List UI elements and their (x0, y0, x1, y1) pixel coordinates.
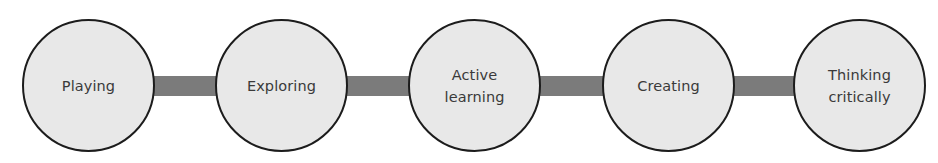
node-label: Playing (62, 75, 115, 97)
node-active-learning: Active learning (408, 19, 541, 152)
node-label: Creating (637, 75, 699, 97)
node-label: Active learning (445, 64, 505, 108)
connector-active-learning-creating (534, 76, 607, 96)
node-label: Exploring (247, 75, 316, 97)
connector-playing-exploring (148, 76, 218, 96)
node-playing: Playing (22, 19, 155, 152)
node-exploring: Exploring (215, 19, 348, 152)
connector-exploring-active-learning (342, 76, 412, 96)
connector-creating-thinking-critically (727, 76, 798, 96)
process-diagram: Playing Exploring Active learning Creati… (0, 0, 938, 163)
node-creating: Creating (602, 19, 735, 152)
node-label: Thinking critically (828, 64, 891, 108)
node-thinking-critically: Thinking critically (793, 19, 926, 152)
